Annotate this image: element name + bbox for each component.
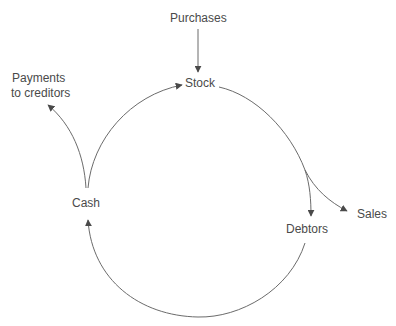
node-payments-line2: to creditors xyxy=(11,86,70,101)
edge-cash-to-payments xyxy=(48,105,86,188)
edge-stock-out xyxy=(219,87,305,170)
node-payments-line1: Payments xyxy=(12,71,65,86)
edge-to-sales xyxy=(305,170,347,211)
node-debtors: Debtors xyxy=(286,222,328,237)
edge-debtors-to-cash xyxy=(88,220,305,317)
node-cash: Cash xyxy=(72,196,100,211)
node-stock: Stock xyxy=(185,76,215,91)
node-purchases: Purchases xyxy=(170,11,227,26)
edge-to-debtors xyxy=(305,170,311,216)
diagram-canvas xyxy=(0,0,396,326)
node-sales: Sales xyxy=(357,207,387,222)
edge-cash-to-stock xyxy=(88,85,182,188)
